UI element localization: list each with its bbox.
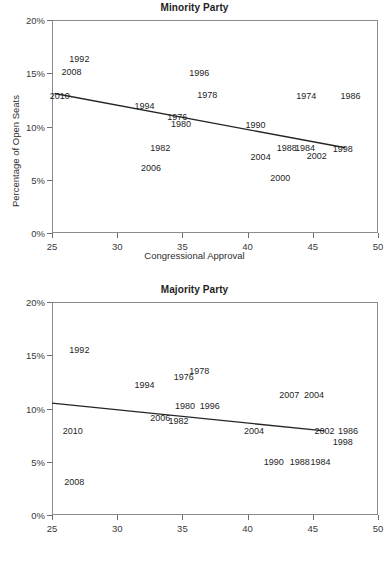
data-point-label: 1994 bbox=[135, 102, 155, 111]
data-point-label: 2002 bbox=[315, 426, 335, 435]
data-point-label: 1980 bbox=[175, 402, 195, 411]
x-axis-tick bbox=[117, 233, 118, 238]
y-axis-tick-label: 20% bbox=[26, 15, 45, 26]
data-point-label: 1986 bbox=[338, 426, 358, 435]
y-axis-tick bbox=[47, 302, 52, 303]
x-axis-tick-label: 40 bbox=[242, 523, 253, 534]
y-axis-tick-label: 5% bbox=[31, 456, 45, 467]
data-point-label: 2004 bbox=[251, 153, 271, 162]
data-point-label: 2006 bbox=[150, 414, 170, 423]
y-axis-tick-label: 5% bbox=[31, 174, 45, 185]
data-point-label: 2008 bbox=[64, 477, 84, 486]
data-point-label: 2007 bbox=[279, 390, 299, 399]
x-axis-tick-label: 50 bbox=[373, 523, 384, 534]
plot-area-majority: 0%5%10%15%20%253035404550199219781976199… bbox=[52, 302, 378, 515]
x-axis-tick bbox=[52, 233, 53, 238]
x-axis-tick bbox=[52, 515, 53, 520]
y-axis-tick-label: 0% bbox=[31, 228, 45, 239]
data-point-label: 1980 bbox=[171, 120, 191, 129]
data-point-label: 1998 bbox=[333, 144, 353, 153]
data-point-label: 1982 bbox=[168, 417, 188, 426]
y-axis-tick-label: 15% bbox=[26, 68, 45, 79]
y-axis-tick bbox=[47, 409, 52, 410]
plot-area-minority: 0%5%10%15%20%253035404550199220082010199… bbox=[52, 20, 378, 233]
data-point-label: 2002 bbox=[307, 152, 327, 161]
y-axis-tick bbox=[47, 180, 52, 181]
data-point-label: 2004 bbox=[304, 390, 324, 399]
data-point-label: 2010 bbox=[50, 91, 70, 100]
y-axis-title-minority: Percentage of Open Seats bbox=[10, 95, 21, 207]
x-axis-tick bbox=[182, 233, 183, 238]
y-axis-tick bbox=[47, 355, 52, 356]
data-point-label: 1994 bbox=[135, 381, 155, 390]
data-point-label: 2004 bbox=[244, 426, 264, 435]
data-point-label: 1982 bbox=[150, 143, 170, 152]
data-point-label: 2000 bbox=[270, 173, 290, 182]
x-axis-tick bbox=[313, 515, 314, 520]
x-axis-tick bbox=[248, 515, 249, 520]
data-point-label: 1988 bbox=[277, 143, 297, 152]
data-point-label: 1990 bbox=[245, 121, 265, 130]
y-axis-tick-label: 20% bbox=[26, 297, 45, 308]
x-axis-tick bbox=[378, 515, 379, 520]
x-axis-tick-label: 35 bbox=[177, 523, 188, 534]
data-point-label: 1988 bbox=[290, 457, 310, 466]
data-point-label: 1998 bbox=[333, 437, 353, 446]
x-axis-title-minority: Congressional Approval bbox=[0, 250, 389, 261]
chart-panel-minority: Minority Party 0%5%10%15%20%253035404550… bbox=[0, 0, 389, 282]
y-axis-tick bbox=[47, 127, 52, 128]
data-point-label: 1992 bbox=[69, 345, 89, 354]
y-axis-tick-label: 10% bbox=[26, 403, 45, 414]
data-point-label: 1992 bbox=[69, 55, 89, 64]
y-axis-tick-label: 10% bbox=[26, 121, 45, 132]
data-point-label: 1984 bbox=[311, 457, 331, 466]
data-point-label: 2006 bbox=[141, 164, 161, 173]
data-point-label: 2008 bbox=[62, 68, 82, 77]
x-axis-tick-label: 45 bbox=[308, 523, 319, 534]
data-point-label: 1996 bbox=[189, 69, 209, 78]
data-point-label: 1974 bbox=[296, 91, 316, 100]
data-point-label: 1990 bbox=[264, 457, 284, 466]
chart-title-majority: Majority Party bbox=[0, 284, 389, 295]
x-axis-tick bbox=[378, 233, 379, 238]
y-axis-tick-label: 15% bbox=[26, 350, 45, 361]
x-axis-tick bbox=[117, 515, 118, 520]
x-axis-tick-label: 25 bbox=[47, 523, 58, 534]
data-point-label: 1978 bbox=[197, 90, 217, 99]
data-point-label: 2010 bbox=[63, 426, 83, 435]
x-axis-tick-label: 30 bbox=[112, 523, 123, 534]
y-axis-tick bbox=[47, 20, 52, 21]
y-axis-tick-label: 0% bbox=[31, 510, 45, 521]
x-axis-tick bbox=[182, 515, 183, 520]
data-point-label: 1976 bbox=[174, 372, 194, 381]
x-axis-tick bbox=[248, 233, 249, 238]
y-axis-tick bbox=[47, 73, 52, 74]
data-point-label: 1986 bbox=[341, 91, 361, 100]
chart-title-minority: Minority Party bbox=[0, 2, 389, 13]
chart-panel-majority: Majority Party 0%5%10%15%20%253035404550… bbox=[0, 282, 389, 564]
x-axis-tick bbox=[313, 233, 314, 238]
regression-line-minority bbox=[52, 20, 378, 233]
y-axis-tick bbox=[47, 462, 52, 463]
data-point-label: 1996 bbox=[200, 402, 220, 411]
